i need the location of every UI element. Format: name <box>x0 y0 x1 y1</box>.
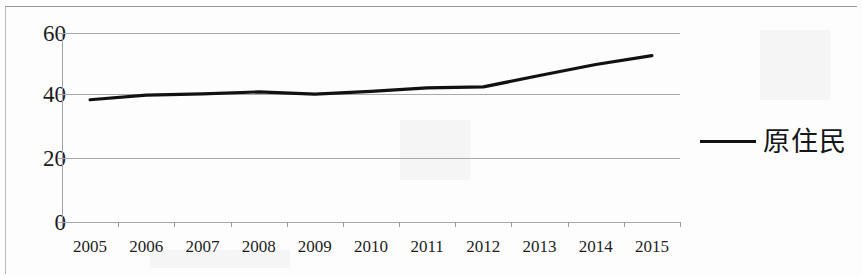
x-axis-tick <box>231 222 232 227</box>
x-axis-tick <box>624 222 625 227</box>
x-axis-tick-label: 2014 <box>566 238 626 255</box>
x-axis-tick-label: 2013 <box>510 238 570 255</box>
x-axis-tick <box>568 222 569 227</box>
x-axis-tick-label: 2012 <box>453 238 513 255</box>
x-axis-tick <box>174 222 175 227</box>
x-axis-tick <box>343 222 344 227</box>
figure-border-left <box>5 6 6 274</box>
x-axis-tick-label: 2008 <box>229 238 289 255</box>
series-line-yuanzhumin <box>62 33 680 222</box>
x-axis-tick <box>62 222 63 227</box>
x-axis-tick-label: 2006 <box>116 238 176 255</box>
scan-artifact <box>760 30 830 100</box>
x-axis-tick-label: 2009 <box>285 238 345 255</box>
gridline-0 <box>62 222 680 223</box>
line-chart: 60 40 20 0 20052006200720082009201020112… <box>0 0 862 276</box>
x-axis-tick-label: 2005 <box>60 238 120 255</box>
x-axis-tick <box>511 222 512 227</box>
figure-border-top <box>5 6 857 7</box>
plot-area <box>62 33 680 222</box>
legend-line-marker-icon <box>700 140 756 143</box>
x-axis-tick <box>455 222 456 227</box>
x-axis-tick-label: 2015 <box>622 238 682 255</box>
legend-label: 原住民 <box>763 128 847 155</box>
x-axis-tick-label: 2011 <box>397 238 457 255</box>
x-axis-tick <box>399 222 400 227</box>
x-axis-tick <box>287 222 288 227</box>
chart-legend: 原住民 <box>700 128 847 155</box>
x-axis-tick-label: 2010 <box>341 238 401 255</box>
x-axis-tick <box>680 222 681 227</box>
x-axis-tick-label: 2007 <box>172 238 232 255</box>
x-axis-tick <box>118 222 119 227</box>
